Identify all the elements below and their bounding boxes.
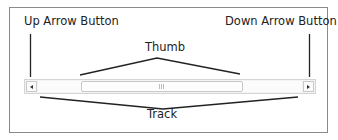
grip-lines-icon (159, 84, 165, 89)
scrollbar-thumb[interactable] (81, 81, 243, 92)
horizontal-scrollbar[interactable] (24, 79, 316, 94)
thumb-leader-line (80, 58, 240, 75)
leader-lines (0, 0, 338, 140)
up-arrow-button[interactable] (26, 81, 37, 92)
scrollbar-track[interactable] (38, 81, 302, 92)
down-arrow-button[interactable] (303, 81, 314, 92)
triangle-right-icon (307, 85, 310, 89)
triangle-left-icon (30, 85, 33, 89)
track-leader-line (40, 97, 298, 109)
